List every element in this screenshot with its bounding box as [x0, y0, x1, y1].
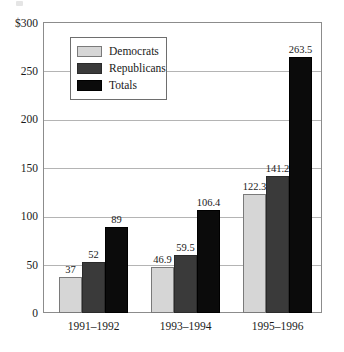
- legend-item-democrats[interactable]: Democrats: [77, 43, 160, 60]
- x-axis: 1991–1992 1993–1994 1995–1996: [43, 321, 322, 341]
- bar-value-republicans-1991-1992: 52: [79, 250, 108, 261]
- bar-democrats-1991-1992[interactable]: [59, 277, 82, 313]
- bar-value-totals-1991-1992: 89: [102, 215, 131, 226]
- y-tick-100: 100: [21, 211, 38, 223]
- x-tick-1993-1994: 1993–1994: [141, 321, 230, 333]
- legend-swatch-republicans-icon: [77, 63, 102, 74]
- bar-chart-figure: $300 250 200 150 100 50 0 37 52 89 46.9 …: [0, 0, 344, 352]
- legend-item-totals[interactable]: Totals: [77, 77, 160, 94]
- bar-value-democrats-1991-1992: 37: [56, 265, 85, 276]
- y-tick-200: 200: [21, 114, 38, 126]
- legend-swatch-totals-icon: [77, 80, 102, 91]
- legend-item-republicans[interactable]: Republicans: [77, 60, 160, 77]
- y-axis: $300 250 200 150 100 50 0: [0, 0, 38, 352]
- bar-value-totals-1995-1996: 263.5: [282, 45, 319, 56]
- y-tick-250: 250: [21, 66, 38, 78]
- y-tick-50: 50: [27, 260, 39, 272]
- bar-democrats-1995-1996[interactable]: [243, 194, 266, 313]
- bar-totals-1991-1992[interactable]: [105, 227, 128, 313]
- y-tick-0: 0: [32, 308, 38, 320]
- x-tick-1991-1992: 1991–1992: [49, 321, 138, 333]
- legend-label-totals: Totals: [109, 80, 137, 92]
- bar-value-totals-1993-1994: 106.4: [190, 198, 227, 209]
- y-tick-300: $300: [15, 18, 38, 30]
- bar-democrats-1993-1994[interactable]: [151, 267, 174, 313]
- legend-swatch-democrats-icon: [77, 46, 102, 57]
- bar-republicans-1995-1996[interactable]: [266, 176, 289, 313]
- x-tick-1995-1996: 1995–1996: [233, 321, 322, 333]
- bar-totals-1995-1996[interactable]: [289, 57, 312, 313]
- bar-republicans-1991-1992[interactable]: [82, 262, 105, 313]
- y-tick-150: 150: [21, 163, 38, 175]
- bar-totals-1993-1994[interactable]: [197, 210, 220, 313]
- bar-republicans-1993-1994[interactable]: [174, 255, 197, 313]
- legend-label-democrats: Democrats: [109, 46, 159, 58]
- chart-legend: Democrats Republicans Totals: [70, 37, 167, 100]
- legend-label-republicans: Republicans: [109, 63, 166, 75]
